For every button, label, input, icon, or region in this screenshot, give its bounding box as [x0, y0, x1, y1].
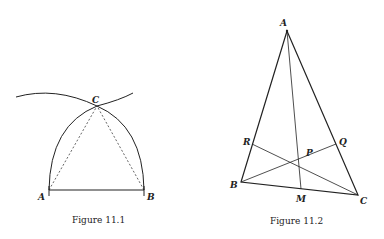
- cevian-am: [287, 31, 301, 189]
- figure-11-2: [241, 31, 358, 195]
- caption-fig1: Figure 11.1: [72, 215, 125, 225]
- cevian-bq: [241, 144, 336, 182]
- cevian-cr: [252, 144, 358, 195]
- point-a-dot: [286, 30, 288, 32]
- label-c-fig2: C: [360, 196, 368, 206]
- label-b-fig1: B: [146, 192, 155, 202]
- label-a-fig2: A: [279, 18, 287, 28]
- figures-canvas: A B C Figure 11.1 A B C R Q P M Figure 1…: [0, 0, 384, 239]
- label-p-fig2: P: [305, 148, 313, 158]
- label-m-fig2: M: [295, 194, 307, 204]
- label-r-fig2: R: [242, 137, 251, 147]
- arc-centered-at-b: [16, 93, 133, 106]
- label-q-fig2: Q: [339, 137, 347, 147]
- caption-fig2: Figure 11.2: [270, 216, 323, 226]
- label-a-fig1: A: [37, 192, 45, 202]
- label-c-fig1: C: [92, 95, 100, 105]
- label-b-fig2: B: [229, 180, 238, 190]
- figure-11-1: [16, 93, 144, 196]
